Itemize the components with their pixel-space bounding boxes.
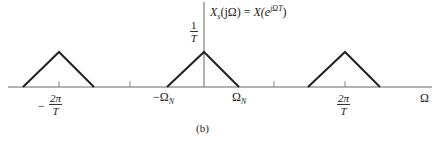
right-replica-triangle (308, 52, 380, 87)
function-label: Xs(jΩ) = X(ejΩT) (210, 4, 287, 21)
figure-caption: (b) (196, 122, 209, 134)
center-triangle (167, 52, 239, 87)
tick-sign: − (38, 99, 45, 114)
tick-label-omega-n: ΩN (232, 90, 246, 106)
tick-label-pos-2pi-over-T: 2π T (337, 92, 350, 117)
spectrum-diagram (0, 0, 443, 145)
peak-label: 1 T (190, 19, 198, 44)
axis-label-omega: Ω (420, 91, 429, 106)
tick-label-neg-2pi-over-T: 2π T (49, 92, 62, 117)
tick-label-neg-omega-n: −ΩN (153, 90, 174, 106)
